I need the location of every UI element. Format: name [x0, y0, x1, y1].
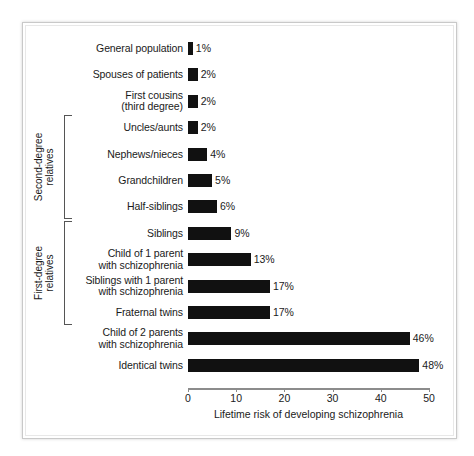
bar-value-label: 5% — [215, 174, 230, 187]
bar-value-label: 46% — [413, 332, 434, 345]
x-axis-tick-label: 0 — [185, 392, 191, 404]
category-label-line1: Half-siblings — [127, 200, 183, 212]
bar — [188, 306, 270, 319]
bar-value-label: 1% — [196, 42, 211, 55]
category-label-line1: General population — [96, 42, 183, 54]
category-label: Uncles/aunts — [124, 122, 184, 134]
group-label-second-degree-line1: Second-degree — [33, 133, 44, 201]
category-label: Half-siblings — [127, 201, 183, 213]
group-label-first-degree-line1: First-degree — [33, 246, 44, 300]
group-label-first-degree: First-degree relatives — [33, 246, 55, 300]
category-label-line1: Identical twins — [119, 359, 183, 371]
bar — [188, 121, 198, 134]
category-label-line1: Child of 1 parent — [108, 247, 183, 259]
bar — [188, 174, 212, 187]
bar-value-label: 48% — [422, 359, 443, 372]
x-axis-tick-label: 10 — [230, 392, 242, 404]
category-label: Identical twins — [119, 360, 183, 372]
category-label-line1: Siblings — [147, 227, 183, 239]
group-label-first-degree-line2: relatives — [44, 254, 55, 291]
category-label: Fraternal twins — [116, 307, 183, 319]
bar — [188, 148, 207, 161]
category-label-line2: (third degree) — [121, 100, 183, 112]
category-label: Child of 1 parentwith schizophrenia — [98, 248, 183, 271]
category-label: Nephews/nieces — [107, 149, 183, 161]
category-label-line2: with schizophrenia — [98, 338, 183, 350]
bar — [188, 280, 270, 293]
category-label-line1: Grandchildren — [118, 174, 183, 186]
bar — [188, 42, 193, 55]
bar-value-label: 13% — [254, 253, 275, 266]
category-label-line1: Child of 2 parents — [103, 326, 184, 338]
bar — [188, 95, 198, 108]
bar — [188, 227, 231, 240]
category-label-line1: Nephews/nieces — [107, 148, 183, 160]
category-label-line1: Fraternal twins — [116, 306, 183, 318]
category-label: Child of 2 parentswith schizophrenia — [98, 327, 183, 350]
category-label: Grandchildren — [118, 175, 183, 187]
x-axis-tick-label: 40 — [375, 392, 387, 404]
bar-value-label: 9% — [234, 227, 249, 240]
category-label-line1: Siblings with 1 parent — [85, 274, 183, 286]
category-label-line1: First cousins — [125, 89, 183, 101]
bar-value-label: 2% — [201, 121, 216, 134]
category-label: Siblings with 1 parentwith schizophrenia — [85, 275, 183, 298]
chart-page: General population1%Spouses of patients2… — [0, 0, 474, 456]
bar — [188, 68, 198, 81]
category-label-line1: Spouses of patients — [93, 68, 183, 80]
bar-value-label: 2% — [201, 95, 216, 108]
x-axis-tick-label: 20 — [279, 392, 291, 404]
x-axis-tick-label: 50 — [423, 392, 435, 404]
bar-value-label: 17% — [273, 280, 294, 293]
group-label-second-degree-line2: relatives — [44, 149, 55, 186]
bar-value-label: 2% — [201, 68, 216, 81]
bar — [188, 253, 251, 266]
group-label-second-degree: Second-degree relatives — [33, 133, 55, 201]
category-label-line1: Uncles/aunts — [124, 121, 184, 133]
bar-value-label: 17% — [273, 306, 294, 319]
bar — [188, 332, 410, 345]
category-label: Siblings — [147, 228, 183, 240]
x-axis-line — [188, 388, 429, 390]
bar — [188, 200, 217, 213]
category-label: Spouses of patients — [93, 69, 183, 81]
bar-value-label: 4% — [210, 148, 225, 161]
category-label: General population — [96, 43, 183, 55]
bracket-second-degree — [64, 115, 72, 219]
x-axis-tick-label: 30 — [327, 392, 339, 404]
category-label-line2: with schizophrenia — [98, 285, 183, 297]
category-label: First cousins(third degree) — [121, 90, 183, 113]
bar — [188, 359, 419, 372]
bar-chart: General population1%Spouses of patients2… — [0, 0, 474, 456]
bracket-first-degree — [64, 221, 72, 325]
category-label-line2: with schizophrenia — [98, 259, 183, 271]
bar-value-label: 6% — [220, 200, 235, 213]
x-axis-title: Lifetime risk of developing schizophreni… — [188, 408, 429, 420]
